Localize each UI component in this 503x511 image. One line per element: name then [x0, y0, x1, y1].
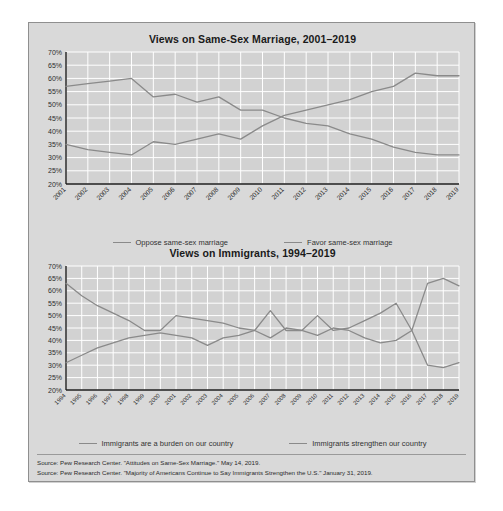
x-axis-tick-label: 2017 — [401, 186, 417, 202]
line-swatch-icon — [289, 443, 307, 444]
x-axis-tick-label: 2006 — [242, 392, 255, 405]
chart2-legend-label-burden: Immigrants are a burden on our country — [102, 439, 234, 448]
y-axis-tick-label: 70% — [48, 263, 62, 270]
x-axis-tick-label: 2011 — [321, 392, 334, 405]
x-axis-tick-label: 1996 — [85, 392, 98, 405]
y-axis-tick-label: 40% — [48, 128, 62, 135]
x-axis-tick-label: 2004 — [117, 186, 133, 202]
x-axis-tick-label: 2005 — [226, 392, 239, 405]
y-axis-tick-label: 50% — [48, 312, 62, 319]
x-axis-tick-label: 2012 — [336, 392, 349, 405]
x-axis-tick-label: 2018 — [431, 392, 444, 405]
x-axis-tick-label: 2017 — [415, 392, 428, 405]
y-axis-tick-label: 40% — [48, 337, 62, 344]
line-swatch-icon — [79, 443, 97, 444]
y-axis-tick-label: 60% — [48, 287, 62, 294]
chart1-title: Views on Same-Sex Marriage, 2001–2019 — [29, 27, 476, 48]
y-axis-tick-label: 60% — [48, 75, 62, 82]
x-axis-tick-label: 2008 — [204, 186, 220, 202]
y-axis-tick-label: 35% — [48, 141, 62, 148]
x-axis-tick-label: 2012 — [292, 186, 308, 202]
x-axis-tick-label: 2001 — [163, 392, 176, 405]
slide-canvas: Views on Same-Sex Marriage, 2001–2019 20… — [28, 22, 475, 482]
chart1-legend: Oppose same-sex marriage Favor same-sex … — [29, 218, 476, 247]
x-axis-tick-label: 2007 — [258, 392, 271, 405]
x-axis-tick-label: 2013 — [352, 392, 365, 405]
x-axis-tick-label: 2010 — [305, 392, 318, 405]
y-axis-tick-label: 45% — [48, 115, 62, 122]
y-axis-tick-label: 45% — [48, 325, 62, 332]
chart2-title: Views on Immigrants, 1994–2019 — [29, 245, 476, 262]
x-axis-tick-label: 2003 — [195, 392, 208, 405]
y-axis-tick-label: 25% — [48, 167, 62, 174]
x-axis-tick-label: 2018 — [423, 186, 439, 202]
x-axis-tick-label: 2015 — [357, 186, 373, 202]
chart2-legend: Immigrants are a burden on our country I… — [29, 422, 476, 448]
chart2-legend-item-burden: Immigrants are a burden on our country — [79, 439, 234, 448]
chart2-plot-area: 20%25%30%35%40%45%50%55%60%65%70%1994199… — [40, 262, 465, 422]
y-axis-tick-label: 70% — [48, 49, 62, 56]
x-axis-tick-label: 1995 — [69, 392, 82, 405]
x-axis-tick-label: 2001 — [51, 186, 67, 202]
chart1-plot-svg: 20%25%30%35%40%45%50%55%60%65%70%2001200… — [40, 48, 465, 218]
x-axis-tick-label: 1998 — [116, 392, 129, 405]
x-axis-tick-label: 2016 — [399, 392, 412, 405]
x-axis-tick-label: 2014 — [368, 392, 382, 406]
page-root: Views on Same-Sex Marriage, 2001–2019 20… — [0, 0, 503, 511]
x-axis-tick-label: 2009 — [226, 186, 242, 202]
x-axis-tick-label: 2016 — [379, 186, 395, 202]
x-axis-tick-label: 2019 — [444, 186, 460, 202]
x-axis-tick-label: 2015 — [383, 392, 396, 405]
sources-block: Source: Pew Research Center. "Attitudes … — [37, 454, 466, 477]
y-axis-tick-label: 30% — [48, 362, 62, 369]
y-axis-tick-label: 50% — [48, 101, 62, 108]
x-axis-tick-label: 2009 — [289, 392, 302, 405]
x-axis-tick-label: 2000 — [148, 392, 161, 405]
x-axis-tick-label: 2004 — [211, 392, 225, 406]
x-axis-tick-label: 1999 — [132, 392, 145, 405]
chart2-plot-svg: 20%25%30%35%40%45%50%55%60%65%70%1994199… — [40, 262, 465, 422]
y-axis-tick-label: 55% — [48, 300, 62, 307]
x-axis-tick-label: 1997 — [100, 392, 113, 405]
x-axis-tick-label: 2003 — [95, 186, 111, 202]
x-axis-tick-label: 2002 — [179, 392, 192, 405]
x-axis-tick-label: 2007 — [182, 186, 198, 202]
y-axis-tick-label: 35% — [48, 349, 62, 356]
x-axis-tick-label: 2019 — [446, 392, 459, 405]
chart2-legend-item-strengthen: Immigrants strengthen our country — [289, 439, 426, 448]
y-axis-tick-label: 25% — [48, 374, 62, 381]
source-line-1: Source: Pew Research Center. "Attitudes … — [37, 458, 466, 467]
y-axis-tick-label: 65% — [48, 62, 62, 69]
chart1-plot-area: 20%25%30%35%40%45%50%55%60%65%70%2001200… — [40, 48, 465, 218]
x-axis-tick-label: 2010 — [248, 186, 264, 202]
y-axis-tick-label: 20% — [48, 387, 62, 394]
y-axis-tick-label: 30% — [48, 154, 62, 161]
line-swatch-icon — [113, 242, 131, 243]
x-axis-tick-label: 2006 — [161, 186, 177, 202]
x-axis-tick-label: 2008 — [273, 392, 286, 405]
line-swatch-icon — [284, 242, 302, 243]
x-axis-tick-label: 2005 — [139, 186, 155, 202]
x-axis-tick-label: 2002 — [73, 186, 89, 202]
y-axis-tick-label: 55% — [48, 88, 62, 95]
chart-same-sex-marriage: Views on Same-Sex Marriage, 2001–2019 20… — [29, 27, 476, 249]
x-axis-tick-label: 2013 — [313, 186, 329, 202]
x-axis-tick-label: 2011 — [270, 186, 285, 201]
x-axis-tick-label: 2014 — [335, 186, 351, 202]
x-axis-tick-label: 1994 — [53, 392, 67, 406]
source-line-2: Source: Pew Research Center. "Majority o… — [37, 468, 466, 477]
chart2-legend-label-strengthen: Immigrants strengthen our country — [312, 439, 426, 448]
y-axis-tick-label: 65% — [48, 275, 62, 282]
chart-immigrants: Views on Immigrants, 1994–2019 20%25%30%… — [29, 245, 476, 441]
